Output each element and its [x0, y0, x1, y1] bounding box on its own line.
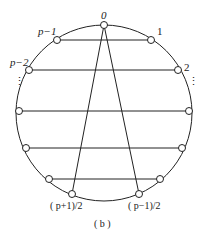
chord-apex-left	[72, 25, 104, 194]
node-bottom-left	[69, 191, 76, 198]
label-dots-right: ⋮	[188, 76, 199, 87]
node-r4-right	[179, 145, 186, 152]
chord-apex-right	[104, 25, 139, 194]
label-1: 1	[157, 26, 163, 37]
circle-chord-diagram	[0, 0, 202, 235]
node-1	[148, 37, 155, 44]
node-r3-left	[16, 108, 23, 115]
node-r4-left	[23, 145, 30, 152]
node-bottom-right	[136, 191, 143, 198]
label-p-2: p−2	[10, 57, 28, 68]
node-0	[101, 22, 108, 29]
label-0: 0	[101, 10, 107, 21]
node-2	[175, 67, 182, 74]
node-r3-right	[186, 108, 193, 115]
node-p-1	[54, 37, 61, 44]
caption: ( b )	[94, 219, 111, 229]
outer-circle	[16, 25, 192, 201]
label-bottom-left: ( p+1)/2	[50, 201, 83, 211]
label-2: 2	[184, 62, 190, 73]
label-p-1: p−1	[38, 26, 56, 37]
node-r5-right	[157, 176, 164, 183]
label-dots-left: ⋮	[14, 76, 25, 87]
label-bottom-right: ( p−1)/2	[128, 201, 161, 211]
node-r5-left	[46, 176, 53, 183]
